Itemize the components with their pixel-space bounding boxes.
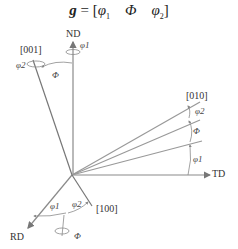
nd-phi1-label: φ1 [80,40,89,50]
rd-phi2-label: φ2 [72,199,81,209]
rd-label: RD [10,231,24,242]
rd-Phi-label: Φ [74,231,81,241]
nd-label: ND [66,28,80,39]
nd-phi2-label: φ2 [16,60,25,70]
td-phi2-label: φ2 [195,106,204,116]
c001-label: [001] [20,44,42,55]
nd-arc-Phi [42,62,72,67]
nd-Phi-label: Φ [52,70,59,80]
td-Phi-label: Φ [193,126,200,136]
euler-diagram [0,0,238,249]
intermediate-axis-2 [72,141,202,175]
td-label: TD [212,168,225,179]
c001-rotation-phi2 [27,61,45,67]
c100-label: [100] [96,203,118,214]
rd-phi1-label: φ1 [50,201,59,211]
intermediate-axis-1 [72,120,200,175]
c010-axis [72,102,200,175]
c010-label: [010] [186,90,208,101]
td-phi1-label: φ1 [193,154,202,164]
td-arc-phi1 [188,145,191,175]
